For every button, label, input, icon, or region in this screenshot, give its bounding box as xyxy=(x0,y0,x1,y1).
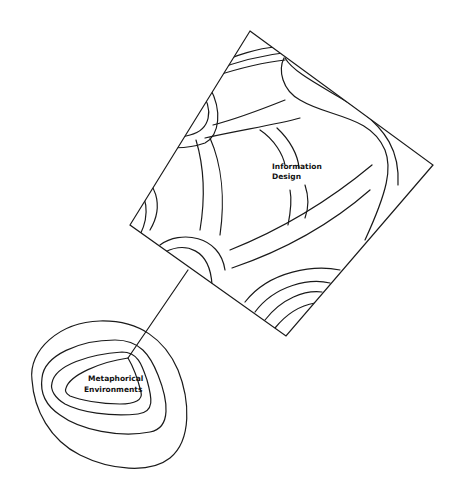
contour-ring-3 xyxy=(52,352,151,415)
connector-line xyxy=(128,270,188,358)
metaphorical-label-line-1: Metaphorical xyxy=(88,374,143,383)
information-label-line-1: Information xyxy=(272,162,322,171)
information-design-node: Information Design xyxy=(130,31,433,336)
metaphorical-label-line-2: Environments xyxy=(84,385,143,394)
metaphorical-environments-node: Metaphorical Environments xyxy=(32,321,187,468)
diagram-canvas: Metaphorical Environments xyxy=(0,0,458,488)
information-label-line-2: Design xyxy=(272,172,301,181)
